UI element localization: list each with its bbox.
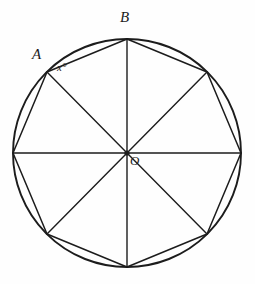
- center-point-o: [124, 150, 129, 155]
- geometry-figure: A B O x°: [0, 0, 255, 284]
- radius-to-vertex-sw: [47, 153, 127, 234]
- radius-to-vertex-ne: [127, 72, 207, 153]
- center-label-o: O: [130, 154, 139, 167]
- radius-to-vertex-a: [47, 72, 127, 153]
- geometry-canvas: [0, 0, 255, 284]
- vertex-label-b: B: [120, 10, 129, 25]
- vertex-label-a: A: [32, 47, 41, 62]
- angle-label-x: x°: [57, 62, 66, 73]
